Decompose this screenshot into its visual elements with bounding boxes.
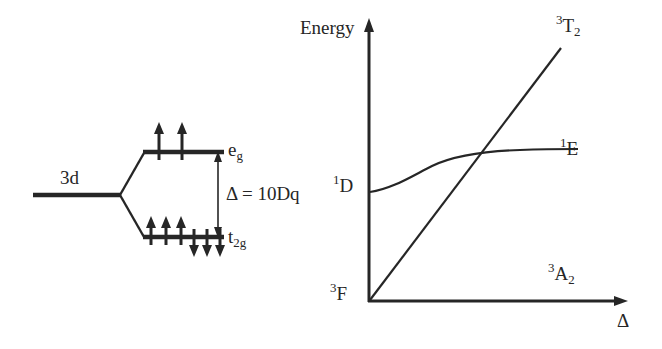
series-label-1E-base: E: [566, 138, 578, 159]
correlation-diagram: [364, 18, 628, 306]
series-curve-1E: [370, 149, 578, 192]
y-axis: [364, 18, 374, 302]
term-label-3F-base: F: [336, 283, 347, 304]
y-axis-label: Energy: [300, 18, 355, 37]
series-label-3A2-sub: 2: [568, 272, 574, 287]
splitting-branch-lower: [120, 195, 144, 237]
t2g-spin-up-arrow-2: [161, 216, 171, 245]
series-label-1E: 1E: [560, 139, 578, 158]
t2g-label-sub: 2g: [233, 235, 246, 250]
t2g-level-label: t2g: [228, 227, 246, 246]
term-label-1D-base: D: [339, 175, 353, 196]
splitting-energy-label: Δ = 10Dq: [226, 184, 300, 203]
eg-level-label: eg: [228, 140, 243, 159]
series-label-3A2: 3A2: [548, 264, 575, 283]
t2g-spin-up-arrow-1: [146, 216, 156, 245]
t2g-spin-down-arrow-2: [202, 229, 212, 257]
eg-spin-up-arrow-2: [177, 122, 187, 160]
t2g-spin-down-arrow-1: [189, 229, 199, 257]
eg-electron-arrows: [154, 122, 187, 160]
eg-label-sub: g: [236, 148, 242, 163]
series-label-3A2-base: A: [554, 263, 568, 284]
series-label-3T2-sub: 2: [574, 24, 580, 39]
t2g-spin-up-arrow-3: [176, 216, 186, 245]
x-axis-label: Δ: [617, 311, 629, 330]
term-label-3F: 3F: [330, 284, 347, 303]
term-label-1D: 1D: [333, 176, 353, 195]
series-line-3T2: [370, 48, 561, 300]
splitting-branch-upper: [120, 153, 144, 195]
eg-spin-up-arrow-1: [154, 122, 164, 160]
x-axis: [368, 296, 628, 306]
crystal-field-splitting-diagram: [33, 122, 225, 257]
splitting-measure-arrow: [214, 151, 222, 238]
series-label-3T2: 3T2: [556, 16, 581, 35]
series-label-3T2-base: T: [562, 15, 574, 36]
free-ion-3d-label: 3d: [60, 168, 79, 187]
